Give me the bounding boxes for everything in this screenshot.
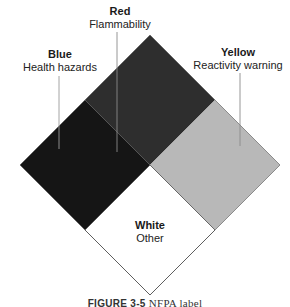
label-blue-meaning: Health hazards xyxy=(15,61,105,74)
figure-caption-text: NFPA label xyxy=(149,297,203,307)
figure-number: FIGURE 3-5 xyxy=(88,298,146,307)
label-red-title: Red xyxy=(85,5,155,18)
label-blue: Blue Health hazards xyxy=(15,48,105,74)
label-white: White Other xyxy=(120,219,180,245)
label-yellow-meaning: Reactivity warning xyxy=(190,59,286,72)
label-yellow-title: Yellow xyxy=(190,46,286,59)
label-white-meaning: Other xyxy=(120,232,180,245)
figure-caption: FIGURE 3-5 NFPA label xyxy=(0,297,290,307)
label-red: Red Flammability xyxy=(85,5,155,31)
label-white-title: White xyxy=(120,219,180,232)
label-red-meaning: Flammability xyxy=(85,18,155,31)
label-yellow: Yellow Reactivity warning xyxy=(190,46,286,72)
label-blue-title: Blue xyxy=(15,48,105,61)
